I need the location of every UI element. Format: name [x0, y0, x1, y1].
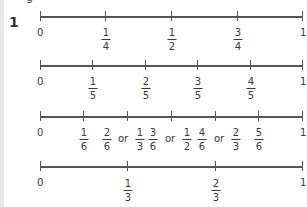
- fraction-label: 56: [255, 127, 264, 152]
- label-one: 1: [300, 76, 306, 87]
- numerator: 4: [199, 127, 205, 138]
- fraction-label: 16: [80, 127, 89, 152]
- denominator: 3: [213, 192, 219, 203]
- tick-5-6: [258, 111, 259, 121]
- tick-2-5: [145, 60, 146, 70]
- fraction-label: 45: [247, 76, 256, 101]
- cut-off-text: g: [26, 0, 33, 4]
- denominator: 6: [150, 141, 156, 152]
- denominator: 6: [104, 141, 110, 152]
- denominator: 3: [125, 192, 131, 203]
- numerator: 2: [213, 178, 219, 189]
- fraction-label: 15: [89, 76, 98, 101]
- fraction-bar: [80, 139, 89, 140]
- numerator: 2: [143, 76, 149, 87]
- denominator: 2: [169, 41, 175, 52]
- axis-line: [40, 65, 302, 67]
- tick-1: [302, 111, 303, 121]
- tick-0: [40, 161, 41, 171]
- numerator: 3: [235, 27, 241, 38]
- fraction-bar: [124, 190, 133, 191]
- fraction-label: 12: [168, 27, 177, 52]
- label-zero: 0: [37, 27, 43, 38]
- fraction-bar: [149, 139, 158, 140]
- fraction-bar: [234, 39, 243, 40]
- numerator: 1: [103, 27, 109, 38]
- numerator: 1: [184, 127, 190, 138]
- fraction-label: 25: [142, 76, 151, 101]
- fraction-label: 46: [198, 127, 207, 152]
- fraction-bar: [102, 39, 111, 40]
- tick-1-6: [83, 111, 84, 121]
- denominator: 6: [81, 141, 87, 152]
- denominator: 3: [137, 141, 143, 152]
- label-zero: 0: [37, 76, 43, 87]
- tick-2-3: [215, 161, 216, 171]
- fraction-label: 26: [103, 127, 112, 152]
- fraction-bar: [232, 139, 241, 140]
- numerator: 1: [81, 127, 87, 138]
- denominator: 6: [256, 141, 262, 152]
- numerator: 3: [150, 127, 156, 138]
- fraction-bar: [142, 88, 151, 89]
- tick-0: [40, 60, 41, 70]
- tick-3-4: [237, 11, 238, 21]
- fraction-label-equivalent: 13: [136, 127, 145, 152]
- tick-4-6: [215, 111, 216, 121]
- or-text: or: [118, 133, 128, 144]
- or-text: or: [214, 133, 224, 144]
- numerator: 1: [169, 27, 175, 38]
- fraction-bar: [198, 139, 207, 140]
- tick-0: [40, 11, 41, 21]
- tick-1-4: [105, 11, 106, 21]
- numerator: 1: [125, 178, 131, 189]
- denominator: 3: [233, 141, 239, 152]
- axis-line: [40, 166, 302, 168]
- fraction-label: 14: [102, 27, 111, 52]
- tick-3-5: [197, 60, 198, 70]
- fraction-bar: [194, 88, 203, 89]
- label-zero: 0: [37, 127, 43, 138]
- fraction-label: 35: [194, 76, 203, 101]
- fraction-bar: [247, 88, 256, 89]
- fraction-label: 23: [212, 178, 221, 203]
- tick-1-2: [171, 11, 172, 21]
- numerator: 5: [256, 127, 262, 138]
- numerator: 4: [248, 76, 254, 87]
- tick-1: [302, 161, 303, 171]
- denominator: 4: [103, 41, 109, 52]
- fraction-bar: [89, 88, 98, 89]
- label-one: 1: [300, 27, 306, 38]
- tick-3-6: [171, 111, 172, 121]
- numerator: 1: [90, 76, 96, 87]
- fraction-label-equivalent: 23: [232, 127, 241, 152]
- fraction-bar: [136, 139, 145, 140]
- denominator: 4: [235, 41, 241, 52]
- denominator: 5: [195, 90, 201, 101]
- numerator: 2: [104, 127, 110, 138]
- or-text: or: [165, 133, 175, 144]
- label-one: 1: [300, 127, 306, 138]
- tick-1: [302, 60, 303, 70]
- tick-0: [40, 111, 41, 121]
- label-one: 1: [300, 177, 306, 188]
- fraction-bar: [103, 139, 112, 140]
- fraction-bar: [168, 39, 177, 40]
- denominator: 2: [184, 141, 190, 152]
- fraction-label: 34: [234, 27, 243, 52]
- denominator: 5: [248, 90, 254, 101]
- fraction-bar: [255, 139, 264, 140]
- numerator: 3: [195, 76, 201, 87]
- fraction-bar: [212, 190, 221, 191]
- numerator: 2: [233, 127, 239, 138]
- label-zero: 0: [37, 177, 43, 188]
- tick-1-5: [92, 60, 93, 70]
- tick-1-3: [127, 161, 128, 171]
- denominator: 5: [90, 90, 96, 101]
- page-edge: [0, 0, 4, 207]
- fraction-bar: [183, 139, 192, 140]
- question-number: 1: [9, 14, 19, 30]
- tick-2-6: [127, 111, 128, 121]
- numerator: 1: [137, 127, 143, 138]
- tick-4-5: [250, 60, 251, 70]
